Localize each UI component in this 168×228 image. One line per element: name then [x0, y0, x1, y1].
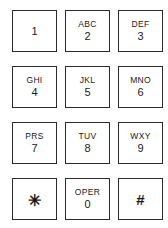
key-2-label: 2	[84, 31, 90, 42]
key-7-label: 7	[31, 143, 37, 154]
key-9[interactable]: WXY9	[118, 122, 163, 164]
key-0[interactable]: OPER0	[65, 178, 110, 220]
key-2-letters: ABC	[78, 20, 96, 29]
key-hash[interactable]: #	[118, 178, 163, 220]
key-8-label: 8	[84, 143, 90, 154]
key-6[interactable]: MNO6	[118, 66, 163, 108]
key-0-letters: OPER	[75, 188, 100, 197]
key-star[interactable]: ✳	[12, 178, 57, 220]
key-5-letters: JKL	[80, 76, 96, 85]
key-0-label: 0	[84, 199, 90, 210]
key-7-letters: PRS	[25, 132, 43, 141]
key-2[interactable]: ABC2	[65, 10, 110, 52]
key-star-label: ✳	[28, 196, 41, 206]
key-4-label: 4	[31, 87, 37, 98]
key-9-label: 9	[137, 143, 143, 154]
key-8-letters: TUV	[79, 132, 97, 141]
key-6-letters: MNO	[130, 76, 151, 85]
key-3-letters: DEF	[132, 20, 150, 29]
key-4-letters: GHI	[26, 76, 42, 85]
key-3[interactable]: DEF3	[118, 10, 163, 52]
key-4[interactable]: GHI4	[12, 66, 57, 108]
key-8[interactable]: TUV8	[65, 122, 110, 164]
key-5[interactable]: JKL5	[65, 66, 110, 108]
key-7[interactable]: PRS7	[12, 122, 57, 164]
key-6-label: 6	[137, 87, 143, 98]
keypad-grid: 1ABC2DEF3GHI4JKL5MNO6PRS7TUV8WXY9✳OPER0#	[12, 10, 163, 220]
key-3-label: 3	[137, 31, 143, 42]
key-9-letters: WXY	[130, 132, 150, 141]
key-1-label: 1	[31, 26, 37, 37]
key-1[interactable]: 1	[12, 10, 57, 52]
telephone-keypad: 1ABC2DEF3GHI4JKL5MNO6PRS7TUV8WXY9✳OPER0#	[0, 0, 168, 228]
key-5-label: 5	[84, 87, 90, 98]
key-hash-label: #	[136, 192, 144, 207]
